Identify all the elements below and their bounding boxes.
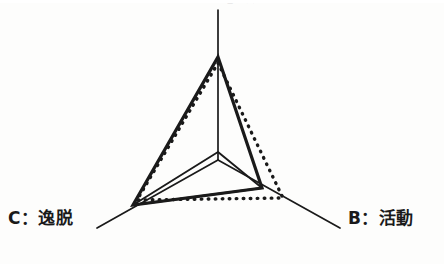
- series-polygon-solid: [133, 57, 262, 205]
- series-polygon-dotted: [137, 63, 283, 200]
- axis-label-b: B：活動: [348, 210, 414, 227]
- axis-label-c: C：逸脱: [8, 210, 73, 227]
- radar-chart-figure: A：意欲 C：逸脱 B：活動: [0, 0, 444, 264]
- axis-line-b: [218, 160, 340, 228]
- axis-line-c: [97, 160, 218, 228]
- top-edge-crop-mask: [0, 0, 444, 3]
